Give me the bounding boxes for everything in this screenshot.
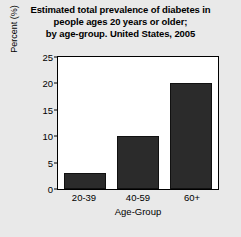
chart-title: Estimated total prevalence of diabetes i… — [0, 4, 241, 40]
bar-60+ — [170, 83, 212, 189]
chart-title-line-1: Estimated total prevalence of diabetes i… — [0, 4, 241, 16]
y-axis-label: Percent (%) — [9, 0, 19, 72]
bar-20-39 — [64, 173, 106, 189]
x-tick-label: 20-39 — [59, 192, 109, 203]
x-axis-ticks: 20-3940-5960+ — [57, 192, 219, 203]
chart-figure: Estimated total prevalence of diabetes i… — [0, 0, 241, 237]
x-tick-label: 60+ — [167, 192, 217, 203]
plot-area: 0510152025 — [57, 56, 219, 190]
x-axis-label: Age-Group — [57, 206, 219, 217]
x-tick-label: 40-59 — [113, 192, 163, 203]
bar-series — [58, 57, 218, 189]
bar-40-59 — [117, 136, 159, 189]
chart-title-line-3: by age-group. United States, 2005 — [0, 28, 241, 40]
chart-title-line-2: people ages 20 years or older; — [0, 16, 241, 28]
